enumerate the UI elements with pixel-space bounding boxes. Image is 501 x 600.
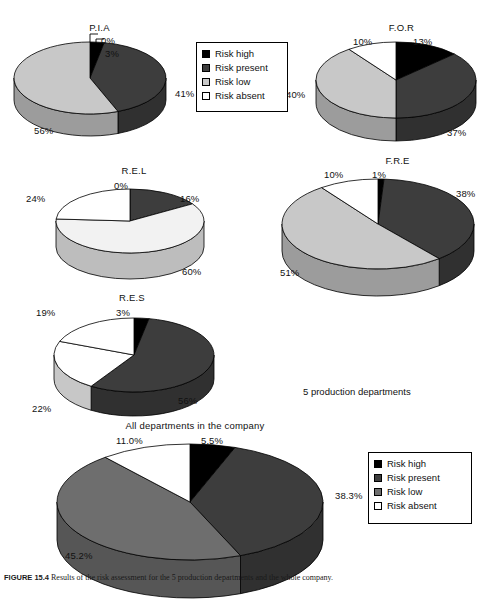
chart-fre-label-low: 51%	[280, 267, 299, 278]
chart-pia-label-absent: 0%	[101, 35, 115, 46]
legend-bottom-label-risk-present: Risk present	[387, 473, 440, 483]
legend-top-row-risk-present: Risk present	[202, 61, 280, 75]
chart-fre-title: F.R.E	[310, 155, 485, 166]
chart-fre: F.R.E 10% 1% 38% 51%	[280, 155, 495, 290]
chart-pia-title: P.I.A	[12, 22, 187, 33]
chart-for: F.O.R 10% 13% 37% 40%	[300, 22, 490, 142]
chart-pia-label-present: 41%	[175, 88, 194, 99]
chart-all-label-absent: 11.0%	[116, 435, 143, 446]
chart-all-label-low: 45.2%	[65, 550, 92, 561]
chart-all-departments-title: All departments in the company	[65, 420, 325, 431]
legend-top-row-risk-low: Risk low	[202, 75, 280, 89]
legend-top-label-risk-absent: Risk absent	[215, 91, 265, 101]
chart-rel-label-high: 0%	[114, 180, 128, 191]
legend-bottom-row-risk-high: Risk high	[374, 457, 464, 471]
chart-pia-label-low: 56%	[34, 125, 53, 136]
legend-top-label-risk-high: Risk high	[215, 49, 254, 59]
chart-rel: R.E.L 0% 16% 60% 24%	[40, 165, 230, 285]
legend-bottom-label-risk-high: Risk high	[387, 459, 426, 469]
chart-fre-label-present: 38%	[456, 188, 475, 199]
legend-swatch-risk-high-icon	[202, 50, 210, 58]
legend-swatch-risk-high-icon	[374, 460, 382, 468]
legend-top-row-risk-absent: Risk absent	[202, 89, 280, 103]
legend-swatch-risk-present-icon	[374, 474, 382, 482]
chart-rel-label-absent: 24%	[26, 193, 45, 204]
chart-pia: P.I.A 0% 3% 41% 56%	[12, 22, 187, 142]
chart-for-title: F.O.R	[314, 22, 489, 33]
chart-rel-label-low: 60%	[182, 266, 201, 277]
legend-swatch-risk-low-icon	[202, 78, 210, 86]
chart-all-departments: All departments in the company 11.0% 5.5…	[55, 420, 345, 565]
legend-bottom-row-risk-present: Risk present	[374, 471, 464, 485]
chart-res-label-high: 3%	[116, 307, 130, 318]
legend-top-row-risk-high: Risk high	[202, 47, 280, 61]
chart-rel-title: R.E.L	[54, 165, 214, 176]
figure-caption: FIGURE 15.4 Results of the risk assessme…	[4, 573, 333, 582]
chart-res-label-absent: 19%	[36, 307, 55, 318]
chart-fre-canvas	[280, 177, 476, 298]
chart-for-label-absent: 10%	[353, 36, 372, 47]
legend-bottom-row-risk-low: Risk low	[374, 485, 464, 499]
chart-all-label-present: 38.3%	[335, 490, 362, 501]
figure-caption-text: Results of the risk assessment for the 5…	[51, 573, 333, 582]
chart-rel-label-present: 16%	[180, 193, 199, 204]
legend-bottom-label-risk-absent: Risk absent	[387, 501, 437, 511]
chart-res-label-present: 56%	[178, 395, 197, 406]
chart-for-label-high: 13%	[413, 36, 432, 47]
legend-bottom-label-risk-low: Risk low	[387, 487, 422, 497]
legend-bottom-row-risk-absent: Risk absent	[374, 499, 464, 513]
chart-for-label-present: 37%	[447, 127, 466, 138]
legend-top: Risk high Risk present Risk low Risk abs…	[196, 42, 288, 112]
legend-swatch-risk-low-icon	[374, 488, 382, 496]
chart-pia-canvas	[12, 40, 168, 138]
legend-swatch-risk-present-icon	[202, 64, 210, 72]
chart-res-title: R.E.S	[52, 292, 212, 303]
legend-swatch-risk-absent-icon	[374, 502, 382, 510]
chart-all-label-high: 5.5%	[201, 435, 223, 446]
chart-res: R.E.S 3% 56% 22% 19%	[38, 292, 228, 417]
figure-caption-label: FIGURE 15.4	[4, 573, 49, 582]
legend-top-label-risk-low: Risk low	[215, 77, 250, 87]
legend-swatch-risk-absent-icon	[202, 92, 210, 100]
chart-fre-label-absent: 10%	[324, 169, 343, 180]
legend-top-label-risk-present: Risk present	[215, 63, 268, 73]
chart-fre-label-high: 1%	[372, 169, 386, 180]
production-departments-note: 5 production departments	[303, 386, 411, 397]
chart-for-label-low: 40%	[286, 89, 305, 100]
chart-pia-label-high: 3%	[105, 48, 119, 59]
chart-res-label-low: 22%	[32, 403, 51, 414]
legend-bottom: Risk high Risk present Risk low Risk abs…	[368, 452, 472, 524]
